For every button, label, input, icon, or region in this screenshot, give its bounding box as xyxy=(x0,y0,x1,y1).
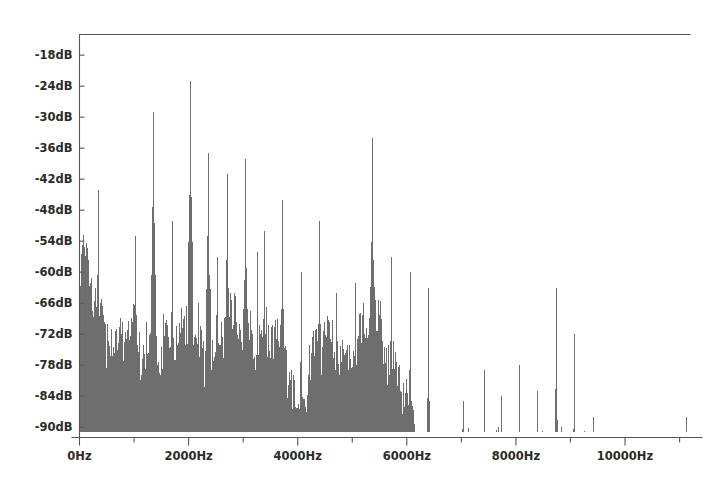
y-tick-label: -42dB xyxy=(35,172,73,186)
y-tick-label: -72dB xyxy=(35,327,73,341)
y-tick-label: -66dB xyxy=(35,296,73,310)
y-tick-label: -54dB xyxy=(35,234,73,248)
x-tick-label: 10000Hz xyxy=(597,449,654,463)
y-tick-label: -78dB xyxy=(35,358,73,372)
x-tick-label: 0Hz xyxy=(67,449,92,463)
y-tick-label: -60dB xyxy=(35,265,73,279)
y-tick-label: -30dB xyxy=(35,110,73,124)
y-tick-label: -36dB xyxy=(35,141,73,155)
y-tick-label: -90dB xyxy=(35,420,73,434)
x-tick-label: 4000Hz xyxy=(274,449,323,463)
x-tick-label: 8000Hz xyxy=(492,449,541,463)
x-tick-label: 6000Hz xyxy=(383,449,432,463)
y-tick-label: -84dB xyxy=(35,389,73,403)
spectrum-plot: -18dB-24dB-30dB-36dB-42dB-48dB-54dB-60dB… xyxy=(0,0,711,478)
x-tick-label: 2000Hz xyxy=(164,449,213,463)
spectrum-trace xyxy=(80,81,692,432)
y-tick-label: -24dB xyxy=(35,79,73,93)
y-tick-label: -18dB xyxy=(35,48,73,62)
spectrum-analyzer-figure: -18dB-24dB-30dB-36dB-42dB-48dB-54dB-60dB… xyxy=(0,0,711,478)
y-tick-label: -48dB xyxy=(35,203,73,217)
